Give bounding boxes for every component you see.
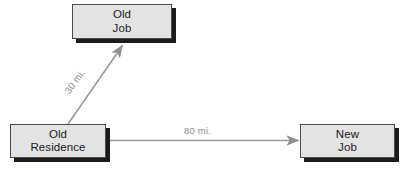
node-old-residence-line2: Residence [30, 141, 85, 155]
edge-label-80mi: 80 mi. [184, 125, 211, 136]
node-old-job-line2: Job [113, 22, 132, 36]
node-new-job[interactable]: New Job [300, 124, 395, 158]
diagram-canvas: Old Job Old Residence New Job 30 mi. 80 … [0, 0, 408, 171]
node-old-job-line1: Old [113, 8, 131, 22]
node-old-residence-line1: Old [49, 128, 67, 142]
node-old-residence[interactable]: Old Residence [10, 124, 106, 158]
node-new-job-line1: New [336, 128, 359, 142]
node-new-job-line2: Job [338, 141, 357, 155]
node-old-job[interactable]: Old Job [72, 4, 172, 39]
